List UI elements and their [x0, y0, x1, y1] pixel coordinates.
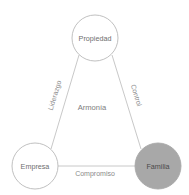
node-familia[interactable]: Familia [135, 143, 181, 189]
triangle-diagram: Propiedad Empresa Familia Liderazgo Cont… [0, 0, 189, 195]
edge-label-compromiso: Compromiso [75, 170, 115, 178]
node-propiedad[interactable]: Propiedad [72, 15, 118, 61]
edge-label-liderazgo: Liderazgo [47, 79, 64, 111]
node-empresa[interactable]: Empresa [12, 143, 58, 189]
edge-label-control: Control [130, 83, 143, 107]
center-label-armonia: Armonía [78, 103, 107, 112]
node-label-empresa: Empresa [21, 162, 50, 171]
node-label-propiedad: Propiedad [79, 34, 112, 43]
diagram-canvas: Propiedad Empresa Familia Liderazgo Cont… [0, 0, 189, 195]
diagram-edge-labels: Liderazgo Control Compromiso [47, 79, 143, 178]
node-label-familia: Familia [146, 162, 169, 171]
